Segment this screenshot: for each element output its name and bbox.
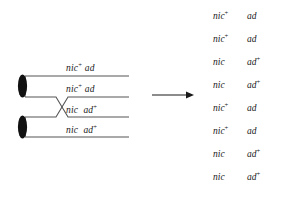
ascospore-nic-allele: nic+: [213, 9, 228, 23]
ascospore-ad-allele: ad+: [247, 55, 260, 69]
gene-nic-2: nic+: [66, 85, 82, 95]
gene-ad-superscript-4: +: [93, 123, 97, 130]
ascospore-ad-superscript: +: [257, 170, 261, 177]
centromere-lower-icon: [18, 116, 27, 139]
right-arrow-icon: [150, 84, 196, 106]
ascospore-nic-allele: nic: [213, 147, 225, 161]
ascospore-nic-allele: nic+: [213, 32, 228, 46]
gene-nic-superscript-2: +: [78, 82, 82, 89]
chromatid-genotype-label-2: nic+ ad: [66, 85, 95, 95]
gene-ad-3: ad+: [81, 106, 97, 116]
ascospore-ad-superscript: +: [257, 78, 261, 85]
ascospore-ad-superscript: +: [257, 147, 261, 154]
ascospore-nic-superscript: +: [225, 9, 229, 16]
centromere-upper-icon: [18, 75, 27, 98]
ascospore-row: nic ad+: [200, 55, 284, 69]
ascospore-row: nic ad+: [200, 78, 284, 92]
ascospore-nic-allele: nic+: [213, 124, 228, 138]
gene-nic-3: nic: [66, 106, 78, 116]
chromatid-genotype-label-3: nic ad+: [66, 106, 97, 116]
chromatid-genotype-label-4: nic ad+: [66, 126, 97, 136]
ascospore-product-list: nic+ ad nic+ ad nic ad+ nic ad+ nic+ ad …: [200, 0, 284, 199]
ascospore-ad-allele: ad: [247, 124, 257, 138]
gene-nic-1: nic+: [66, 64, 82, 74]
ascospore-ad-superscript: +: [257, 55, 261, 62]
gene-ad-superscript-3: +: [93, 103, 97, 110]
ascospore-row: nic+ ad: [200, 9, 284, 23]
ascospore-ad-allele: ad: [247, 101, 257, 115]
ascospore-nic-superscript: +: [225, 32, 229, 39]
gene-nic-superscript-1: +: [78, 61, 82, 68]
ascospore-row: nic ad+: [200, 147, 284, 161]
ascospore-nic-allele: nic: [213, 78, 225, 92]
transition-arrow: [150, 84, 196, 106]
ascospore-row: nic+ ad: [200, 101, 284, 115]
ascospore-ad-allele: ad+: [247, 170, 260, 184]
ascospore-nic-allele: nic: [213, 55, 225, 69]
ascospore-ad-allele: ad+: [247, 147, 260, 161]
ascospore-nic-allele: nic+: [213, 101, 228, 115]
gene-ad-2: ad: [85, 85, 95, 95]
ascospore-row: nic+ ad: [200, 124, 284, 138]
ascospore-ad-allele: ad: [247, 32, 257, 46]
gene-ad-1: ad: [85, 64, 95, 74]
gene-nic-4: nic: [66, 126, 78, 136]
ascospore-nic-allele: nic: [213, 170, 225, 184]
ascospore-nic-superscript: +: [225, 101, 229, 108]
ascospore-nic-superscript: +: [225, 124, 229, 131]
gene-ad-4: ad+: [81, 126, 97, 136]
chromatid-genotype-label-1: nic+ ad: [66, 64, 95, 74]
ascospore-row: nic ad+: [200, 170, 284, 184]
ascospore-row: nic+ ad: [200, 32, 284, 46]
ascospore-ad-allele: ad+: [247, 78, 260, 92]
bivalent-chromatid-svg: [0, 0, 150, 199]
crossover-diagram: nic+ ad nic+ ad nic ad+ nic ad+: [0, 0, 150, 199]
ascospore-ad-allele: ad: [247, 9, 257, 23]
